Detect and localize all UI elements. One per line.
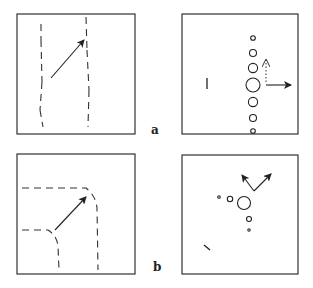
- panel-b-left-frame: [17, 154, 135, 274]
- circle: [250, 115, 257, 122]
- panel-a-left: [17, 14, 135, 134]
- v-arrow-right: [254, 174, 271, 191]
- circle-tiny: [218, 196, 221, 199]
- panel-b-right: [182, 155, 298, 274]
- v-arrow-left: [242, 175, 254, 191]
- label-a: a: [151, 123, 159, 137]
- circle-tiny: [248, 229, 250, 231]
- circle-large: [238, 197, 251, 210]
- diagonal-arrow: [55, 197, 86, 230]
- circle-large: [246, 78, 260, 92]
- circle-small: [227, 196, 232, 201]
- circle: [251, 129, 256, 134]
- dashed-corner-inner: [22, 230, 59, 270]
- panel-a-left-frame: [17, 14, 135, 134]
- label-b: b: [153, 260, 161, 274]
- circle: [248, 63, 257, 72]
- short-diagonal-segment: [204, 245, 210, 250]
- panel-b-left: [17, 154, 135, 274]
- circle: [251, 36, 256, 41]
- figure: a b: [0, 0, 313, 288]
- panel-b-right-frame: [182, 155, 298, 274]
- dashed-line-left: [40, 24, 43, 127]
- dashed-corner-outer: [22, 188, 98, 270]
- circle-small: [247, 217, 252, 222]
- dashed-line-right: [86, 17, 89, 127]
- panel-a-right-frame: [182, 14, 298, 134]
- diagonal-arrow: [51, 40, 84, 78]
- circle: [248, 97, 257, 106]
- circle: [250, 50, 257, 57]
- panel-a-right: [182, 14, 298, 134]
